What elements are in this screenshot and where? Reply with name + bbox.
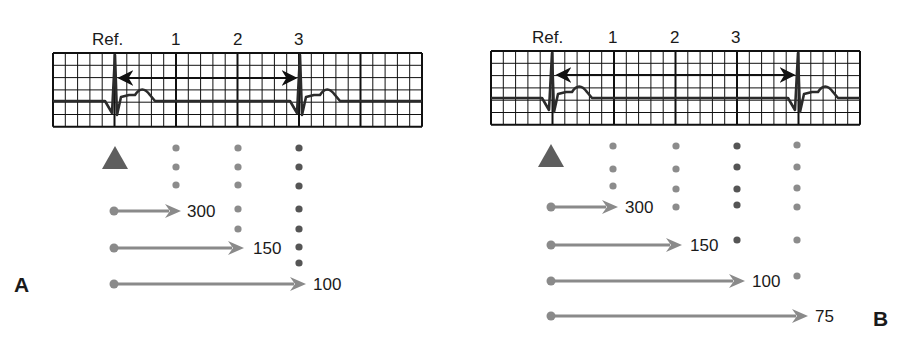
rate-label: 300 — [187, 202, 215, 221]
marker-dot — [172, 144, 179, 151]
ecg-grid — [491, 51, 860, 125]
marker-dot — [295, 144, 302, 151]
column-label-ref: Ref. — [92, 30, 123, 49]
panel-a: Ref. 1 2 3 300150100 A — [14, 30, 422, 296]
marker-dot — [295, 163, 302, 170]
marker-dot — [609, 165, 616, 172]
marker-dot — [172, 163, 179, 170]
marker-dot — [234, 205, 241, 212]
column-label-1: 1 — [171, 30, 180, 49]
marker-dot — [234, 225, 241, 232]
rate-label: 75 — [815, 307, 834, 326]
rate-arrow-75: 75 — [547, 307, 834, 326]
marker-dot — [733, 163, 740, 170]
marker-dot — [733, 201, 740, 208]
marker-dot — [793, 163, 800, 170]
dot-column-2 — [234, 144, 241, 232]
panel-b: Ref. 1 2 3 30015010075 B — [491, 28, 888, 330]
rate-arrow-300: 300 — [110, 202, 216, 221]
marker-dot — [733, 142, 740, 149]
rate-label: 100 — [313, 275, 341, 294]
column-label-3: 3 — [731, 28, 740, 47]
rate-arrows: 300150100 — [110, 202, 342, 294]
marker-dot — [295, 225, 302, 232]
marker-dot — [234, 181, 241, 188]
marker-dot — [234, 163, 241, 170]
marker-dot — [793, 236, 800, 243]
marker-dot — [295, 259, 302, 266]
column-label-3: 3 — [294, 30, 303, 49]
dot-column-3 — [733, 142, 740, 243]
column-labels: Ref. 1 2 3 — [532, 28, 740, 47]
rate-arrow-100: 100 — [110, 275, 342, 294]
rate-arrow-150: 150 — [547, 236, 719, 255]
rate-label: 100 — [752, 272, 780, 291]
marker-dot — [793, 184, 800, 191]
marker-dot — [733, 185, 740, 192]
rate-arrow-300: 300 — [547, 198, 654, 217]
marker-dot — [295, 182, 302, 189]
marker-dot — [672, 165, 679, 172]
ecg-grid — [53, 53, 422, 127]
marker-dot — [295, 243, 302, 250]
marker-dot — [733, 236, 740, 243]
dot-column-4 — [793, 141, 800, 279]
marker-dot — [609, 182, 616, 189]
marker-dot — [672, 142, 679, 149]
marker-dot — [793, 272, 800, 279]
panel-letter-b: B — [873, 307, 888, 330]
reference-triangle-icon — [538, 144, 564, 167]
column-label-1: 1 — [608, 28, 617, 47]
marker-dot — [295, 205, 302, 212]
ecg-rate-diagram: Ref. 1 2 3 300150100 A Ref. 1 2 3 300150… — [0, 0, 913, 349]
column-label-ref: Ref. — [532, 28, 563, 47]
rate-arrows: 30015010075 — [547, 198, 834, 326]
marker-dot — [793, 141, 800, 148]
rate-arrow-100: 100 — [547, 272, 781, 291]
marker-dot — [234, 144, 241, 151]
column-label-2: 2 — [233, 30, 242, 49]
marker-dot — [793, 203, 800, 210]
dot-column-2 — [672, 142, 679, 210]
marker-dot — [609, 142, 616, 149]
panel-letter-a: A — [14, 273, 29, 296]
rate-label: 300 — [625, 198, 653, 217]
column-label-2: 2 — [670, 28, 679, 47]
rate-label: 150 — [253, 239, 281, 258]
dot-column-1 — [172, 144, 179, 188]
marker-dot — [672, 185, 679, 192]
reference-triangle-icon — [102, 146, 128, 169]
rate-label: 150 — [690, 236, 718, 255]
column-labels: Ref. 1 2 3 — [92, 30, 303, 49]
marker-dot — [172, 181, 179, 188]
dot-column-3 — [295, 144, 302, 266]
rate-arrow-150: 150 — [110, 239, 282, 258]
dot-column-1 — [609, 142, 616, 189]
marker-dot — [672, 203, 679, 210]
